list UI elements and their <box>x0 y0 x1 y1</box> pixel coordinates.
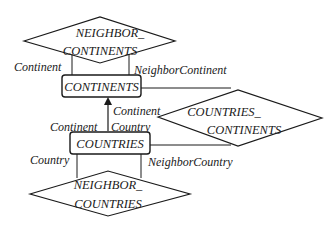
relationship-neighbor-countries: NEIGHBOR_ COUNTRIES <box>30 171 190 216</box>
relationship-label-line1: NEIGHBOR_ <box>75 26 145 40</box>
role-label-continent: Continent <box>113 104 161 118</box>
relationship-label-line2: COUNTRIES <box>74 197 142 211</box>
role-label-continent: Continent <box>14 60 62 74</box>
relationship-countries-continents: COUNTRIES_ CONTINENTS <box>158 90 322 146</box>
arrow-head-icon <box>104 97 112 105</box>
relationship-label-line1: COUNTRIES_ <box>187 105 261 119</box>
entity-label: COUNTRIES <box>76 137 144 151</box>
entity-countries: COUNTRIES <box>70 132 150 154</box>
relationship-label-line2: CONTINENTS <box>207 123 282 137</box>
role-label-neighbor-country: NeighborCountry <box>147 155 233 169</box>
relationship-neighbor-continents: NEIGHBOR_ CONTINENTS <box>24 17 175 63</box>
entity-continents: CONTINENTS <box>62 75 141 97</box>
er-diagram: NEIGHBOR_ CONTINENTS Continent NeighborC… <box>0 0 336 227</box>
role-label-country: Country <box>30 153 70 167</box>
relationship-label-line2: CONTINENTS <box>63 44 138 58</box>
role-label-neighbor-continent: NeighborContinent <box>133 63 227 77</box>
entity-label: CONTINENTS <box>64 80 139 94</box>
relationship-label-line1: NEIGHBOR_ <box>73 178 143 192</box>
